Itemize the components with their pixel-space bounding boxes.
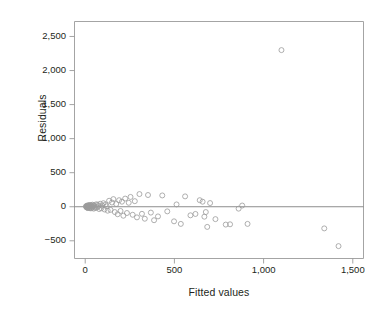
data-point	[165, 209, 170, 214]
data-point	[178, 221, 183, 226]
data-point	[279, 48, 284, 53]
y-tick-label: −500	[22, 234, 66, 245]
data-point	[124, 211, 129, 216]
x-tick-label: 1,500	[323, 264, 383, 275]
data-point	[126, 200, 131, 205]
plot-frame	[75, 22, 364, 259]
axis-ticks	[70, 36, 353, 263]
y-tick-label: 2,000	[22, 64, 66, 75]
data-point	[193, 211, 198, 216]
x-tick-label: 1,000	[234, 264, 294, 275]
y-tick-label: 500	[22, 166, 66, 177]
data-point	[172, 219, 177, 224]
data-point	[208, 201, 213, 206]
data-point	[160, 193, 165, 198]
data-point	[152, 218, 157, 223]
data-point	[121, 213, 126, 218]
data-point	[174, 202, 179, 207]
data-point	[183, 194, 188, 199]
data-point	[213, 217, 218, 222]
y-tick-label: 2,500	[22, 30, 66, 41]
scatter-plot-figure: Residuals Fitted values −50005001,0001,5…	[0, 0, 390, 311]
data-point	[128, 194, 133, 199]
x-axis-title: Fitted values	[74, 286, 364, 298]
data-points	[83, 48, 341, 249]
data-point	[245, 221, 250, 226]
data-point	[137, 192, 142, 197]
data-point	[146, 193, 151, 198]
data-point	[148, 210, 153, 215]
data-point	[118, 208, 123, 213]
data-point	[188, 213, 193, 218]
y-tick-label: 0	[22, 200, 66, 211]
data-point	[155, 214, 160, 219]
data-point	[123, 196, 128, 201]
x-axis-tick-labels: 05001,0001,500	[0, 264, 390, 284]
data-point	[132, 199, 137, 204]
data-point	[139, 211, 144, 216]
y-tick-label: 1,500	[22, 98, 66, 109]
data-point	[134, 215, 139, 220]
data-point	[203, 210, 208, 215]
data-point	[205, 224, 210, 229]
data-point	[322, 226, 327, 231]
data-point	[240, 203, 245, 208]
data-point	[336, 244, 341, 249]
data-point	[142, 216, 147, 221]
y-tick-label: 1,000	[22, 132, 66, 143]
x-tick-label: 500	[144, 264, 204, 275]
x-tick-label: 0	[55, 264, 115, 275]
